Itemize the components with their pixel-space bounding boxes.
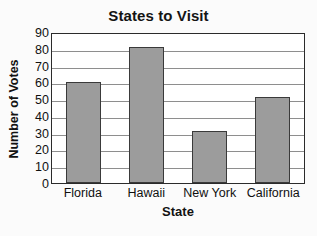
y-axis-tick-label: 70: [22, 60, 49, 73]
x-axis-tick-label: Hawaii: [115, 186, 179, 200]
bar-slot: [52, 34, 115, 183]
y-axis-tick-label: 30: [22, 127, 49, 140]
bar-florida[interactable]: [66, 82, 101, 183]
y-axis-tick-label: 80: [22, 44, 49, 57]
x-axis-tick-label: California: [242, 186, 306, 200]
bar-slot: [241, 34, 304, 183]
y-axis-tick-label: 10: [22, 161, 49, 174]
bar-hawaii[interactable]: [129, 47, 164, 183]
plot-area: [51, 33, 305, 184]
bar-new-york[interactable]: [192, 131, 227, 183]
y-axis-tick-label: 60: [22, 77, 49, 90]
bar-slot: [115, 34, 178, 183]
y-axis-tick-labels: 9080706050403020100: [22, 33, 49, 184]
bar-california[interactable]: [255, 97, 290, 183]
x-axis-tick-label: Florida: [51, 186, 115, 200]
y-axis-tick-label: 50: [22, 94, 49, 107]
y-axis-tick-label: 20: [22, 144, 49, 157]
bar-chart-figure: States to Visit Number of Votes 90807060…: [0, 0, 317, 236]
y-axis-tick-label: 40: [22, 111, 49, 124]
x-axis-tick-label: New York: [178, 186, 242, 200]
bars-layer: [52, 34, 304, 183]
bar-slot: [178, 34, 241, 183]
y-axis-title-container: Number of Votes: [5, 33, 23, 184]
x-axis-title: State: [51, 204, 305, 219]
chart-title: States to Visit: [0, 7, 317, 24]
y-axis-tick-label: 90: [22, 27, 49, 40]
y-axis-tick-label: 0: [22, 178, 49, 191]
x-axis-tick-labels: FloridaHawaiiNew YorkCalifornia: [51, 186, 305, 200]
y-axis-title: Number of Votes: [7, 59, 21, 158]
